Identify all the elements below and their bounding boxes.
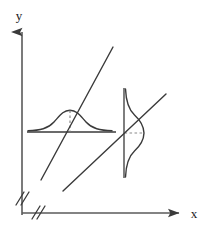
horizontal-normal-curve-group xyxy=(27,110,116,132)
statistics-diagram: y x xyxy=(0,0,212,237)
regression-line-lower xyxy=(63,94,166,191)
x-axis-group: x xyxy=(22,206,198,221)
y-axis-label: y xyxy=(16,8,23,23)
y-axis-group: y xyxy=(16,8,29,215)
regression-lines-group xyxy=(41,47,166,191)
vertical-normal-curve-group xyxy=(124,88,144,178)
figure-container: y x xyxy=(0,0,212,237)
x-axis-label: x xyxy=(191,206,198,221)
regression-line-upper xyxy=(41,47,113,180)
